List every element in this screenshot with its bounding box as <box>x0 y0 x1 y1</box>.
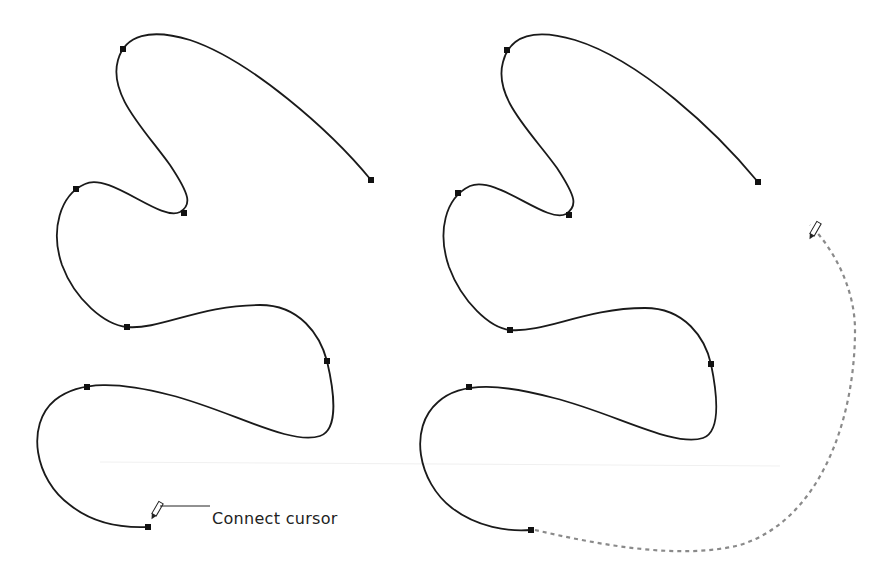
anchor-point[interactable] <box>181 210 187 216</box>
drawing-canvas[interactable] <box>0 0 892 578</box>
anchor-point[interactable] <box>324 358 330 364</box>
anchor-point[interactable] <box>73 186 79 192</box>
left-curve[interactable] <box>37 34 374 530</box>
faint-guide <box>100 462 780 466</box>
anchor-point[interactable] <box>528 527 534 533</box>
anchor-point[interactable] <box>507 327 513 333</box>
anchor-point[interactable] <box>504 47 510 53</box>
right-curve[interactable] <box>420 34 761 533</box>
pencil-cursor-icon <box>807 221 821 240</box>
preview-path <box>535 225 855 551</box>
anchor-point[interactable] <box>84 384 90 390</box>
connect-cursor-icon <box>149 501 163 520</box>
anchor-point[interactable] <box>145 524 151 530</box>
anchor-point[interactable] <box>466 384 472 390</box>
anchor-point[interactable] <box>455 190 461 196</box>
anchor-point[interactable] <box>368 177 374 183</box>
anchor-point[interactable] <box>708 361 714 367</box>
anchor-point[interactable] <box>566 212 572 218</box>
anchor-point[interactable] <box>120 46 126 52</box>
connect-cursor-label: Connect cursor <box>212 509 338 528</box>
anchor-point[interactable] <box>124 324 130 330</box>
anchor-point[interactable] <box>755 179 761 185</box>
